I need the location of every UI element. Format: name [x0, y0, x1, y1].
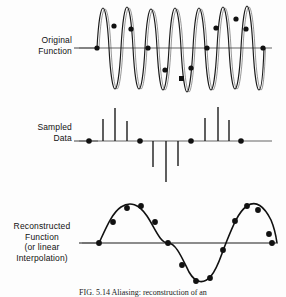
plot-sampled-data	[0, 95, 286, 190]
figure-aliasing: Original Function	[0, 0, 286, 297]
stems-sampled-data	[103, 107, 229, 182]
panel-original-function: Original Function	[0, 0, 286, 95]
plot-reconstructed-function	[0, 180, 286, 297]
sample-dots-original	[94, 16, 265, 81]
panel-sampled-data: Sampled Data	[0, 95, 286, 180]
plot-original-function	[0, 0, 286, 95]
figure-caption: FIG. 5.14 Aliasing: reconstruction of an	[0, 288, 286, 297]
panel-reconstructed-function: Reconstructed Function (or linear Interp…	[0, 180, 286, 297]
